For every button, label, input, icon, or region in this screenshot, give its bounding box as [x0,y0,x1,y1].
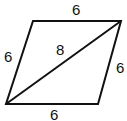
bottom-side-label: 6 [50,106,58,121]
rhombus-diagram: 6 6 8 6 6 [0,0,127,121]
diagram-svg: 6 6 8 6 6 [0,0,127,121]
left-side-label: 6 [4,48,12,65]
right-side-label: 6 [116,59,124,76]
diagonal-label: 8 [56,41,64,58]
diagonal-line [6,21,121,104]
top-side-label: 6 [72,1,80,18]
